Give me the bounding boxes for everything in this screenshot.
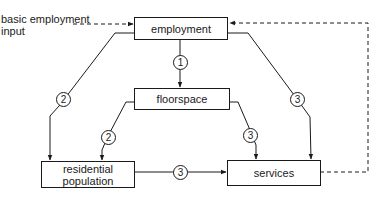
edge-badge-2-left: 2 [56,92,71,107]
input-label-line-1: basic employment [1,13,90,25]
input-label-line-2: input [1,25,90,37]
services-node: services [227,160,321,186]
edge-badge-3-middle: 3 [243,128,258,143]
edge-badge-2-middle: 2 [101,130,116,145]
residential-label: residential [63,163,113,175]
floorspace-node: floorspace [134,88,230,110]
employment-node: employment [134,17,228,40]
edge-badge-3-bottom: 3 [173,165,188,180]
edge-badge-1: 1 [173,55,188,70]
basic-employment-input-label: basic employment input [1,13,90,37]
population-label: population [63,175,114,187]
edge-badge-3-right: 3 [290,92,305,107]
employment-label: employment [151,23,211,35]
floorspace-label: floorspace [157,93,208,105]
services-label: services [254,167,294,179]
residential-population-node: residential population [41,161,135,188]
